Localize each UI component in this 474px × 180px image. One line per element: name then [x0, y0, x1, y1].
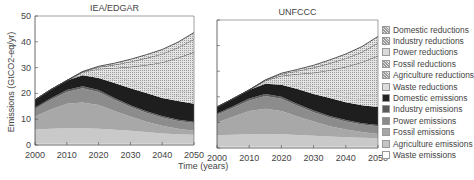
legend-item: Fossil reductions: [382, 58, 474, 69]
y-tick-label: 30: [21, 63, 31, 73]
legend-swatch: [382, 140, 390, 148]
chart-title: IEA/EDGAR: [90, 3, 140, 13]
legend-item: Power reductions: [382, 47, 474, 58]
svg-text:Emissions (GtCO2-eq/yr): Emissions (GtCO2-eq/yr): [6, 32, 16, 133]
legend-item: Waste reductions: [382, 81, 474, 92]
x-tick-label: 2040: [152, 150, 172, 160]
chart-panel-iea-edgar: 01020304050200020102020203020402050IEA/E…: [21, 3, 204, 160]
legend-swatch: [382, 128, 390, 136]
legend-item: Domestic reductions: [382, 24, 474, 35]
legend-label: Domestic emissions: [393, 93, 467, 103]
legend-swatch: [382, 26, 390, 34]
y-tick-label: 40: [21, 37, 31, 47]
x-tick-label: 2020: [89, 150, 109, 160]
legend: Domestic reductionsIndustry reductionsPo…: [382, 24, 474, 161]
x-tick-label: 2010: [57, 150, 77, 160]
y-tick-label: 0: [26, 140, 31, 150]
legend-swatch: [382, 105, 390, 113]
x-tick-label: 2050: [184, 150, 204, 160]
chart-panel-unfccc: 200020102020203020402050UNFCCC: [207, 7, 388, 163]
legend-swatch: [382, 117, 390, 125]
legend-label: Power emissions: [393, 116, 456, 126]
legend-item: Industry reductions: [382, 35, 474, 46]
legend-item: Agriculture emissions: [382, 138, 474, 149]
legend-item: Power emissions: [382, 115, 474, 126]
legend-label: Industry reductions: [393, 36, 464, 46]
legend-label: Fossil emissions: [393, 127, 454, 137]
legend-label: Waste reductions: [393, 82, 457, 92]
legend-label: Waste emissions: [393, 150, 456, 160]
legend-label: Industry emissions: [393, 104, 462, 114]
y-tick-label: 10: [21, 114, 31, 124]
y-tick-label: 20: [21, 88, 31, 98]
x-tick-label: 2010: [239, 153, 259, 163]
legend-label: Agriculture reductions: [393, 70, 474, 80]
x-axis-label: Time (years): [178, 161, 228, 171]
legend-swatch: [382, 151, 390, 159]
legend-swatch: [382, 48, 390, 56]
legend-item: Domestic emissions: [382, 92, 474, 103]
x-tick-label: 2000: [25, 150, 45, 160]
legend-item: Industry emissions: [382, 104, 474, 115]
legend-swatch: [382, 60, 390, 68]
x-tick-label: 2040: [336, 153, 356, 163]
x-tick-label: 2030: [120, 150, 140, 160]
legend-swatch: [382, 94, 390, 102]
legend-item: Fossil emissions: [382, 127, 474, 138]
legend-swatch: [382, 37, 390, 45]
legend-swatch: [382, 83, 390, 91]
legend-label: Fossil reductions: [393, 59, 456, 69]
y-axis-label: Emissions (GtCO2-eq/yr): [6, 32, 16, 133]
chart-title: UNFCCC: [279, 7, 317, 17]
legend-label: Agriculture emissions: [393, 139, 473, 149]
y-tick-label: 50: [21, 11, 31, 21]
legend-label: Domestic reductions: [393, 25, 469, 35]
legend-swatch: [382, 71, 390, 79]
legend-item: Agriculture reductions: [382, 70, 474, 81]
x-tick-label: 2020: [271, 153, 291, 163]
legend-item: Waste emissions: [382, 149, 474, 160]
x-tick-label: 2030: [304, 153, 324, 163]
legend-label: Power reductions: [393, 47, 458, 57]
